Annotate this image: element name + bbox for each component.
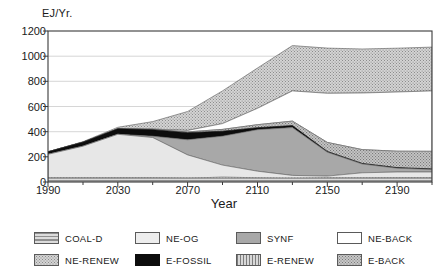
legend-item-ne-og[interactable]: NE-OG [135, 232, 236, 244]
chart-legend: COAL-D NE-OG SYNF NE-BACK NE-RENEW E-FOS… [34, 227, 438, 271]
legend-label-ne-back: NE-BACK [368, 233, 412, 244]
legend-label-e-fossil: E-FOSSIL [166, 255, 212, 266]
legend-item-synf[interactable]: SYNF [236, 232, 337, 244]
x-tick-2110: 2110 [246, 184, 270, 196]
legend-item-e-renew[interactable]: E-RENEW [236, 254, 337, 266]
x-axis-title: Year [0, 196, 448, 211]
legend-swatch-ne-og [135, 232, 160, 244]
legend-label-ne-renew: NE-RENEW [65, 255, 119, 266]
legend-swatch-e-renew [236, 254, 261, 266]
legend-label-coal-d: COAL-D [65, 233, 103, 244]
y-axis-ticks [43, 31, 48, 182]
legend-swatch-e-fossil [135, 254, 160, 266]
legend-label-synf: SYNF [267, 233, 294, 244]
x-tick-2190: 2190 [385, 184, 409, 196]
area-coal-d [48, 178, 432, 182]
legend-swatch-ne-back [337, 232, 362, 244]
legend-label-e-back: E-BACK [368, 255, 405, 266]
x-tick-2030: 2030 [106, 184, 130, 196]
legend-item-e-fossil[interactable]: E-FOSSIL [135, 254, 236, 266]
x-tick-2070: 2070 [176, 184, 200, 196]
legend-item-e-back[interactable]: E-BACK [337, 254, 438, 266]
x-tick-1990: 1990 [36, 184, 60, 196]
legend-item-ne-renew[interactable]: NE-RENEW [34, 254, 135, 266]
legend-swatch-coal-d [34, 232, 59, 244]
x-tick-2150: 2150 [315, 184, 339, 196]
legend-swatch-e-back [337, 254, 362, 266]
chart-figure: EJ/Yr. 1200 1000 800 600 400 200 0 [0, 0, 448, 278]
legend-swatch-ne-renew [34, 254, 59, 266]
legend-swatch-synf [236, 232, 261, 244]
legend-item-coal-d[interactable]: COAL-D [34, 232, 135, 244]
legend-item-ne-back[interactable]: NE-BACK [337, 232, 438, 244]
legend-label-ne-og: NE-OG [166, 233, 199, 244]
legend-label-e-renew: E-RENEW [267, 255, 314, 266]
